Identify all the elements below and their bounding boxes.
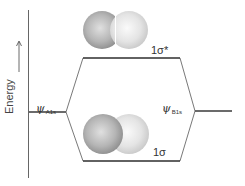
energy-axis-label: Energy <box>4 84 16 114</box>
antibonding-orbital-spheres <box>83 11 148 49</box>
ao-subscript: B1s <box>172 109 182 115</box>
ao-label-left: ψA1s <box>36 99 56 115</box>
mo-diagram <box>0 0 245 186</box>
mo-label-antibonding: 1σ* <box>151 45 168 56</box>
mo-label-bonding: 1σ <box>153 147 166 158</box>
energy-axis <box>17 10 29 178</box>
ao-label-right: ψB1s <box>162 99 182 115</box>
ao-subscript: A1s <box>46 109 56 115</box>
bonding-orbital-spheres <box>83 114 149 154</box>
psi-symbol: ψ <box>36 102 45 115</box>
psi-symbol: ψ <box>162 102 171 115</box>
